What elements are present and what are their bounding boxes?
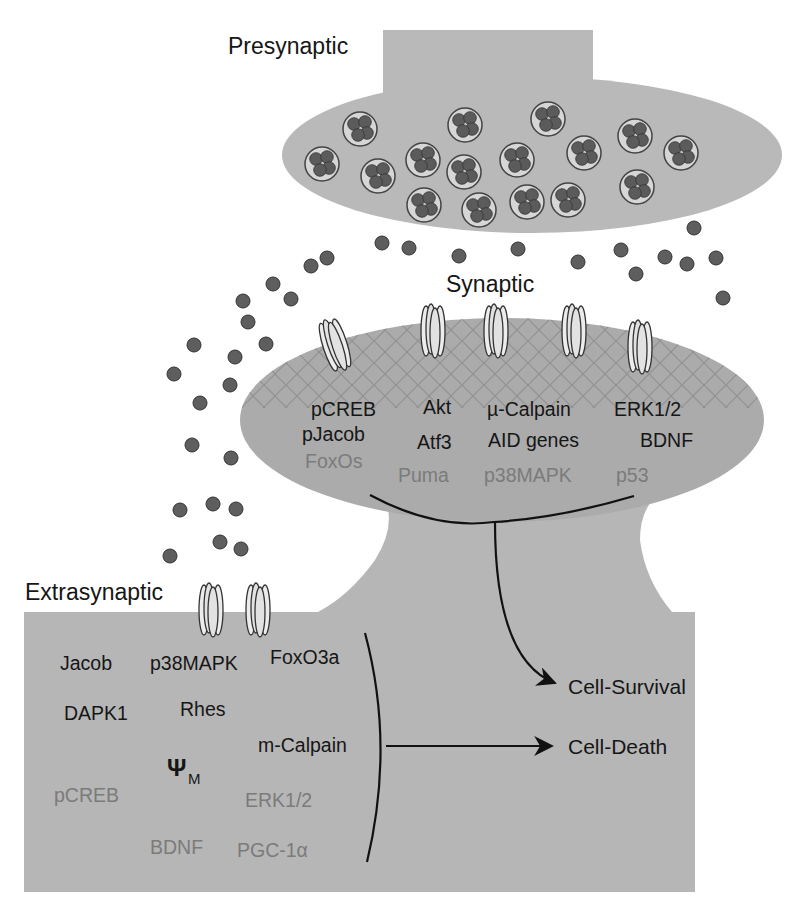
mol-jacob: Jacob bbox=[60, 652, 112, 674]
mol-p53: p53 bbox=[616, 464, 649, 486]
mol-mu-calpain: µ-Calpain bbox=[487, 398, 571, 420]
presynaptic-label: Presynaptic bbox=[228, 33, 348, 59]
mol-aid-genes: AID genes bbox=[488, 429, 579, 451]
mol-erk-syn: ERK1/2 bbox=[614, 398, 681, 420]
mol-akt: Akt bbox=[423, 396, 452, 418]
mol-p38mapk-ext: p38MAPK bbox=[150, 652, 238, 674]
mol-pjacob: pJacob bbox=[302, 423, 365, 445]
cell-survival-label: Cell-Survival bbox=[568, 675, 686, 698]
mol-bdnf-syn: BDNF bbox=[640, 429, 693, 451]
synapse-diagram: Presynaptic Synaptic Extrasynaptic pCREB… bbox=[0, 0, 796, 915]
mol-erk-ext: ERK1/2 bbox=[245, 789, 312, 811]
mol-m-calpain: m-Calpain bbox=[258, 734, 347, 756]
cell-death-label: Cell-Death bbox=[568, 735, 667, 758]
extrasynaptic-label: Extrasynaptic bbox=[25, 579, 163, 605]
mol-pcreb: pCREB bbox=[311, 398, 376, 420]
mol-pcreb-ext: pCREB bbox=[54, 784, 119, 806]
mol-rhes: Rhes bbox=[180, 698, 226, 720]
mol-psi-subscript: M bbox=[188, 770, 201, 787]
mol-puma: Puma bbox=[398, 464, 449, 486]
mol-bdnf-ext: BDNF bbox=[150, 836, 203, 858]
mol-atf3: Atf3 bbox=[417, 431, 452, 453]
mol-pgc1a: PGC-1α bbox=[237, 839, 308, 861]
mol-foxo3a: FoxO3a bbox=[270, 646, 340, 668]
mol-foxos: FoxOs bbox=[305, 450, 363, 472]
mol-psi: Ψ bbox=[167, 754, 186, 781]
mol-dapk1: DAPK1 bbox=[64, 702, 128, 724]
mol-p38mapk-syn: p38MAPK bbox=[484, 464, 572, 486]
synaptic-label: Synaptic bbox=[446, 271, 534, 297]
